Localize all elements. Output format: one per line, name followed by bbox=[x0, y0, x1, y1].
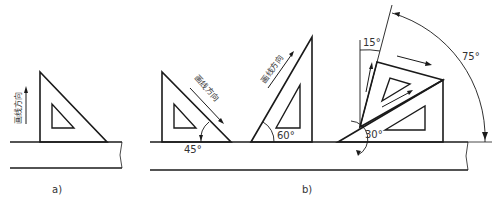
triangle-a bbox=[40, 72, 107, 142]
set-square-diagram: 画线方向 画线方向 画线方向 45° 60° 30° 15° 75° a) b) bbox=[0, 0, 499, 203]
triangle-combo bbox=[338, 5, 488, 156]
caption-b: b) bbox=[302, 184, 312, 195]
angle-75-label: 75° bbox=[462, 51, 480, 62]
direction-label-a: 画线方向 bbox=[13, 92, 23, 124]
angle-30-label: 30° bbox=[365, 129, 383, 140]
straightedge-a bbox=[10, 142, 122, 168]
angle-15-label: 15° bbox=[363, 37, 381, 48]
diagram-canvas: 画线方向 画线方向 画线方向 45° 60° 30° 15° 75° a) b) bbox=[0, 0, 499, 203]
direction-label-45: 画线方向 bbox=[193, 73, 222, 103]
angle-45-label: 45° bbox=[184, 144, 202, 155]
angle-60-label: 60° bbox=[277, 130, 295, 141]
triangle-60 bbox=[251, 37, 312, 142]
arrow-up-icon bbox=[24, 86, 28, 124]
caption-a: a) bbox=[52, 184, 62, 195]
